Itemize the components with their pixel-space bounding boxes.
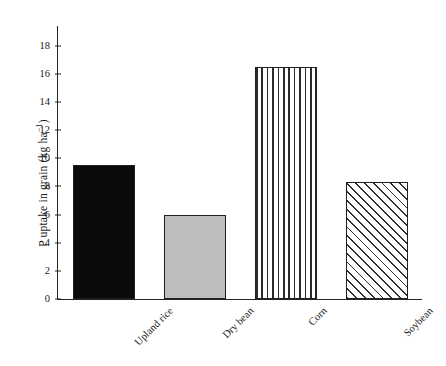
y-tick-label: 0 — [28, 294, 50, 305]
bar-corn — [255, 67, 317, 299]
y-tick-label: 2 — [28, 266, 50, 277]
y-tick-label: 18 — [28, 40, 50, 51]
bar-upland-rice — [73, 165, 135, 299]
x-tick-label-corn: Corn — [306, 305, 329, 328]
y-tick-label: 12 — [28, 125, 50, 136]
y-tick-label: 4 — [28, 237, 50, 248]
y-axis-label-tail: ) — [37, 119, 49, 123]
y-tick-label: 8 — [28, 181, 50, 192]
bar-dry-bean — [164, 215, 226, 299]
bar-chart: P uptake in grain (kg ha−1) 024681012141… — [0, 0, 446, 366]
bar-soybean — [346, 182, 408, 299]
y-tick-label: 16 — [28, 69, 50, 80]
y-tick-label: 14 — [28, 97, 50, 108]
y-tick-label: 6 — [28, 209, 50, 220]
x-tick-label-upland-rice: Upland rice — [132, 305, 175, 348]
x-axis-spine — [57, 299, 422, 300]
x-tick-label-soybean: Soybean — [401, 305, 434, 338]
plot-area — [58, 26, 422, 299]
y-tick-label: 10 — [28, 153, 50, 164]
x-tick-label-dry-bean: Dry bean — [220, 305, 255, 340]
